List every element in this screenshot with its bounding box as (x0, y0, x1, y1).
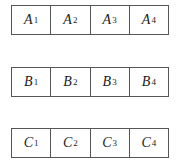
cell-subscript: 4 (151, 15, 156, 25)
cell-b1: B1 (12, 68, 51, 96)
cell-subscript: 3 (112, 15, 117, 25)
cell-subscript: 1 (34, 138, 39, 148)
cell-letter: B (142, 74, 151, 90)
cell-c2: C2 (51, 129, 90, 157)
cell-c1: C1 (12, 129, 51, 157)
cell-b2: B2 (51, 68, 90, 96)
cell-a3: A3 (91, 6, 130, 34)
cell-c3: C3 (91, 129, 130, 157)
cell-c4: C4 (130, 129, 168, 157)
cell-subscript: 1 (34, 77, 39, 87)
cell-subscript: 2 (73, 138, 78, 148)
cell-subscript: 2 (73, 15, 78, 25)
cell-subscript: 1 (34, 15, 39, 25)
row-b: B1 B2 B3 B4 (11, 67, 169, 97)
cell-subscript: 3 (113, 138, 118, 148)
cell-b3: B3 (91, 68, 130, 96)
cell-letter: A (103, 12, 112, 28)
cell-subscript: 4 (152, 138, 157, 148)
cell-letter: C (102, 135, 111, 151)
cell-letter: A (24, 12, 33, 28)
cell-letter: C (141, 135, 150, 151)
cell-letter: A (63, 12, 72, 28)
row-c: C1 C2 C3 C4 (11, 128, 169, 158)
cell-letter: C (24, 135, 33, 151)
cell-letter: B (63, 74, 72, 90)
cell-a1: A1 (12, 6, 51, 34)
row-a: A1 A2 A3 A4 (11, 5, 169, 35)
cell-subscript: 3 (112, 77, 117, 87)
cell-letter: C (63, 135, 72, 151)
cell-subscript: 4 (151, 77, 156, 87)
cell-b4: B4 (130, 68, 168, 96)
cell-a2: A2 (51, 6, 90, 34)
cell-letter: B (24, 74, 33, 90)
cell-a4: A4 (130, 6, 168, 34)
cell-letter: B (103, 74, 112, 90)
cell-subscript: 2 (73, 77, 78, 87)
cell-letter: A (142, 12, 151, 28)
